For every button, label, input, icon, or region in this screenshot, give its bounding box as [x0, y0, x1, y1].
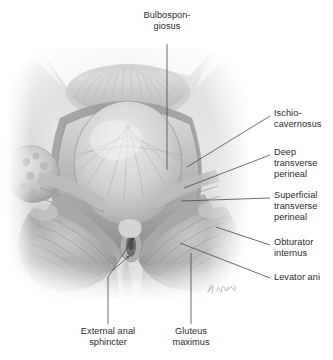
right-fade: [206, 48, 252, 302]
label-ischiocavernosus: Ischio- cavernosus: [274, 108, 333, 130]
left-fade: [6, 48, 32, 302]
label-superficial-transverse-perineal: Superficial transverse perineal: [274, 190, 333, 224]
label-external-anal-sphincter: External anal sphincter: [68, 326, 148, 348]
label-levator-ani: Levator ani: [274, 272, 333, 283]
label-obturator-internus: Obturator internus: [274, 237, 333, 259]
label-gluteus-maximus: Gluteus maximus: [160, 326, 222, 348]
label-deep-transverse-perineal: Deep transverse perineal: [274, 147, 333, 181]
left-ischial-tuberosity: [30, 203, 58, 221]
perineal-body: [118, 219, 141, 238]
label-bulbospongiosus: Bulbospon- giosus: [137, 10, 197, 32]
dome-highlight: [90, 120, 142, 160]
